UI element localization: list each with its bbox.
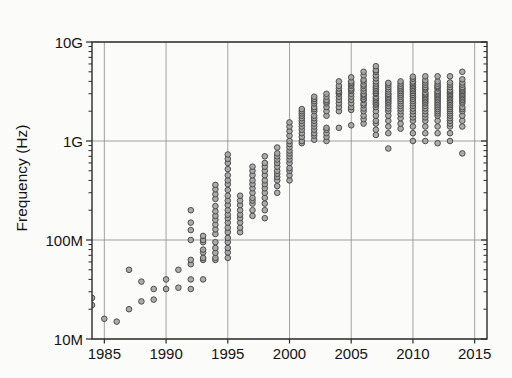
data-point	[311, 94, 317, 100]
data-point	[410, 74, 416, 80]
data-point	[114, 319, 120, 325]
data-point	[126, 306, 132, 312]
data-point	[188, 277, 194, 283]
data-point	[460, 124, 466, 130]
data-point	[200, 247, 206, 253]
data-point	[410, 138, 416, 144]
data-point	[176, 267, 182, 273]
data-point	[213, 239, 219, 245]
data-point	[336, 125, 342, 131]
data-point	[274, 151, 280, 157]
data-point	[163, 286, 169, 292]
data-point	[373, 132, 379, 138]
data-point	[126, 267, 132, 273]
data-point	[225, 173, 231, 179]
data-point	[250, 213, 256, 219]
data-point	[386, 146, 392, 152]
data-point	[139, 279, 145, 285]
x-tick-label: 2000	[273, 345, 306, 362]
data-point	[200, 255, 206, 261]
data-point	[188, 257, 194, 263]
data-point	[435, 140, 441, 146]
data-point	[213, 203, 219, 209]
data-point	[200, 233, 206, 239]
frequency-vs-year-scatter-chart: 198519901995200020052010201510G1G100M10M…	[0, 0, 512, 378]
x-tick-label: 1990	[149, 345, 182, 362]
data-point	[287, 138, 293, 144]
data-point	[200, 277, 206, 283]
data-point	[262, 207, 268, 213]
data-point	[348, 75, 354, 81]
data-point	[447, 130, 453, 136]
data-point	[324, 125, 330, 131]
data-point	[262, 160, 268, 166]
data-point	[423, 74, 429, 80]
data-point	[176, 285, 182, 291]
data-point	[262, 201, 268, 207]
data-point	[398, 79, 404, 85]
x-tick-label: 1985	[88, 345, 121, 362]
data-point	[460, 69, 466, 75]
data-point	[423, 130, 429, 136]
data-point	[250, 164, 256, 170]
data-point	[102, 316, 108, 322]
data-point	[299, 106, 305, 112]
data-point	[336, 79, 342, 85]
data-point	[410, 130, 416, 136]
y-tick-label: 10M	[54, 331, 83, 348]
data-point	[188, 220, 194, 226]
data-point	[151, 286, 157, 292]
data-point	[213, 245, 219, 251]
x-tick-label: 2005	[335, 345, 368, 362]
data-point	[250, 207, 256, 213]
data-point	[262, 154, 268, 160]
data-point	[460, 77, 466, 83]
x-tick-labels: 1985199019952000200520102015	[88, 345, 492, 362]
x-tick-label: 1995	[211, 345, 244, 362]
x-tick-label: 2010	[396, 345, 429, 362]
data-point	[274, 190, 280, 196]
data-point	[225, 235, 231, 241]
data-point	[188, 286, 194, 292]
data-point	[373, 63, 379, 69]
data-point	[373, 127, 379, 133]
data-point	[435, 124, 441, 130]
data-point	[386, 80, 392, 86]
y-tick-label: 100M	[45, 232, 83, 249]
data-point	[447, 138, 453, 144]
data-point	[386, 130, 392, 136]
data-point	[163, 277, 169, 283]
data-point	[423, 124, 429, 130]
data-point	[225, 166, 231, 172]
data-point	[188, 227, 194, 233]
data-point	[435, 130, 441, 136]
data-point	[274, 183, 280, 189]
data-point	[361, 69, 367, 75]
data-point	[139, 299, 145, 305]
y-tick-label: 1G	[63, 133, 83, 150]
data-point	[410, 124, 416, 130]
data-point	[225, 193, 231, 199]
data-point	[151, 297, 157, 303]
data-point	[435, 74, 441, 80]
data-point	[225, 255, 231, 261]
y-tick-label: 10G	[55, 34, 83, 51]
data-point	[188, 237, 194, 243]
data-point	[460, 151, 466, 157]
data-point	[423, 138, 429, 144]
data-point	[287, 120, 293, 126]
data-point	[274, 145, 280, 151]
y-axis-title: Frequency (Hz)	[13, 125, 30, 232]
data-point	[398, 121, 404, 127]
data-point	[188, 207, 194, 213]
data-point	[237, 193, 243, 199]
data-point	[386, 124, 392, 130]
y-tick-labels: 10G1G100M10M	[45, 34, 83, 348]
data-point	[225, 187, 231, 193]
data-point	[447, 74, 453, 80]
data-point	[324, 91, 330, 97]
data-point	[225, 152, 231, 158]
x-tick-label: 2015	[458, 345, 491, 362]
data-point	[262, 215, 268, 221]
figure-canvas: 198519901995200020052010201510G1G100M10M…	[0, 0, 512, 378]
